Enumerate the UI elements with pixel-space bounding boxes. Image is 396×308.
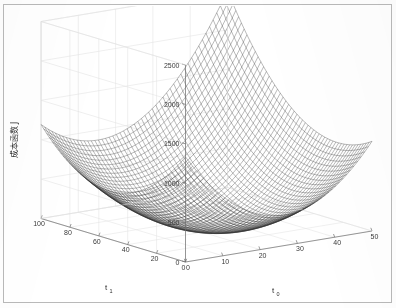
tick-label: 2000 — [164, 101, 180, 108]
tick-label: 30 — [296, 245, 304, 252]
z-axis-label-text: 成本函数 J — [9, 122, 19, 159]
tick-label: 80 — [64, 229, 72, 236]
tick-label: 0 — [176, 259, 180, 266]
tick-label: 1000 — [164, 180, 180, 187]
tick-label: 0 — [186, 264, 190, 271]
y-axis-label: t 1 — [105, 283, 113, 294]
tick-label: 2500 — [164, 62, 180, 69]
figure-container: 0500100015002000250002040608010001020304… — [0, 0, 396, 308]
z-axis-label: 成本函数 J — [9, 122, 19, 159]
tick-label: 0 — [182, 264, 186, 271]
tick-label: 40 — [333, 239, 341, 246]
tick-label: 500 — [168, 219, 180, 226]
tick-label: 50 — [371, 233, 379, 240]
y-axis-label-base: t — [105, 283, 108, 292]
x-axis-label: t 0 — [272, 286, 280, 297]
tick-label: 100 — [33, 220, 45, 227]
tick-label: 10 — [221, 258, 229, 265]
tick-label: 1500 — [164, 140, 180, 147]
tick-label: 40 — [122, 246, 130, 253]
y-axis-label-subscript: 1 — [109, 288, 112, 294]
tick-label: 60 — [93, 238, 101, 245]
tick-label: 20 — [151, 255, 159, 262]
tick-label: 20 — [259, 252, 267, 259]
x-axis-label-subscript: 0 — [276, 291, 279, 297]
axes-gridlines — [41, 0, 372, 262]
surface-plot: 0500100015002000250002040608010001020304… — [0, 0, 396, 308]
axis-lines — [41, 0, 372, 262]
x-axis-label-base: t — [272, 286, 275, 295]
